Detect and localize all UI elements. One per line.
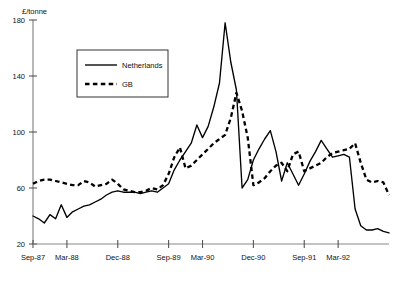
legend-box: [77, 50, 168, 97]
y-tick-label: 20: [17, 240, 25, 249]
x-tick-label: Sep-89: [157, 253, 181, 262]
x-axis-group: Sep-87Mar-88Dec-88Sep-89Mar-90Dec-90Sep-…: [21, 240, 389, 262]
legend-label-netherlands: Netherlands: [122, 61, 163, 70]
x-tick-label: Mar-88: [55, 253, 79, 262]
y-tick-label: 140: [12, 72, 25, 81]
y-tick-label: 180: [12, 16, 25, 25]
x-tick-label: Sep-91: [292, 253, 316, 262]
x-axis-tick-labels: Sep-87Mar-88Dec-88Sep-89Mar-90Dec-90Sep-…: [21, 253, 350, 262]
x-tick-label: Mar-92: [326, 253, 350, 262]
x-tick-label: Mar-90: [191, 253, 215, 262]
x-tick-label: Dec-90: [241, 253, 265, 262]
price-line-chart: 2060100140180 Sep-87Mar-88Dec-88Sep-89Ma…: [0, 0, 395, 285]
y-axis-tick-labels: 2060100140180: [12, 16, 25, 249]
legend: Netherlands GB: [77, 50, 168, 97]
y-tick-label: 60: [17, 184, 25, 193]
y-tick-label: 100: [12, 128, 25, 137]
x-tick-label: Sep-87: [21, 253, 45, 262]
y-axis-unit-label: £/tonne: [22, 7, 47, 16]
x-tick-label: Dec-88: [106, 253, 130, 262]
chart-canvas: 2060100140180 Sep-87Mar-88Dec-88Sep-89Ma…: [0, 0, 395, 285]
series-line-gb: [33, 93, 389, 195]
y-axis-group: 2060100140180: [12, 16, 37, 249]
legend-label-gb: GB: [122, 80, 133, 89]
